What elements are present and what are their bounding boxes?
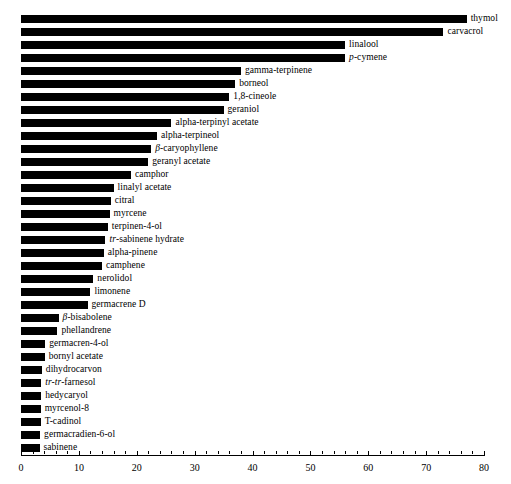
bar-label: carvacrol bbox=[447, 27, 483, 37]
bar-label: p-cymene bbox=[349, 53, 387, 63]
axis-tick-label: 20 bbox=[132, 463, 142, 473]
bar-row: citral bbox=[0, 194, 135, 207]
axis-tick-major bbox=[310, 451, 311, 456]
axis-tick-label: 60 bbox=[363, 463, 373, 473]
axis-tick-minor bbox=[171, 451, 172, 454]
bar-label: β-caryophyllene bbox=[155, 144, 217, 154]
axis-tick-label: 40 bbox=[248, 463, 258, 473]
bar bbox=[21, 366, 42, 374]
bar-label: myrcenol-8 bbox=[45, 404, 89, 414]
axis-tick-major bbox=[79, 451, 80, 456]
bar-row: camphor bbox=[0, 168, 169, 181]
axis-tick-minor bbox=[67, 451, 68, 454]
bar-label: camphene bbox=[106, 261, 145, 271]
axis-tick-minor bbox=[241, 451, 242, 454]
bar bbox=[21, 132, 157, 140]
bar bbox=[21, 431, 40, 439]
axis-tick-minor bbox=[287, 451, 288, 454]
axis-tick-minor bbox=[33, 451, 34, 454]
axis-cap-left bbox=[21, 451, 22, 456]
bar-row: geranyl acetate bbox=[0, 155, 210, 168]
bar-row: dihydrocarvon bbox=[0, 363, 102, 376]
axis-tick-minor bbox=[415, 451, 416, 454]
axis-tick-minor bbox=[125, 451, 126, 454]
bar bbox=[21, 106, 224, 114]
axis-tick-label: 50 bbox=[305, 463, 315, 473]
bar-row: T-cadinol bbox=[0, 415, 81, 428]
bar-label: alpha-pinene bbox=[108, 248, 158, 258]
bar-label: 1,8-cineole bbox=[233, 92, 276, 102]
bar bbox=[21, 327, 57, 335]
bar bbox=[21, 418, 41, 426]
bar bbox=[21, 80, 235, 88]
bar bbox=[21, 54, 345, 62]
axis-tick-minor bbox=[334, 451, 335, 454]
axis-tick-minor bbox=[345, 451, 346, 454]
axis-tick-major bbox=[195, 451, 196, 456]
axis-tick-minor bbox=[160, 451, 161, 454]
axis-tick-minor bbox=[472, 451, 473, 454]
bar-label: tr-tr-farnesol bbox=[45, 378, 95, 388]
bar-row: tr-tr-farnesol bbox=[0, 376, 95, 389]
bar-label: germacradien-6-ol bbox=[44, 430, 115, 440]
bar bbox=[21, 197, 111, 205]
bar-label: alpha-terpineol bbox=[161, 131, 219, 141]
bar bbox=[21, 41, 345, 49]
axis-tick-minor bbox=[461, 451, 462, 454]
bar bbox=[21, 15, 467, 23]
bar-label: thymol bbox=[471, 14, 498, 24]
bar-label: β-bisabolene bbox=[63, 313, 112, 323]
bar-row: β-caryophyllene bbox=[0, 142, 218, 155]
bar-row: germacradien-6-ol bbox=[0, 428, 115, 441]
axis-tick-minor bbox=[449, 451, 450, 454]
axis-tick-minor bbox=[90, 451, 91, 454]
bar-row: myrcene bbox=[0, 207, 147, 220]
bar-label: camphor bbox=[135, 170, 169, 180]
bar-label: myrcene bbox=[114, 209, 147, 219]
bar bbox=[21, 392, 41, 400]
bar-row: germacrene D bbox=[0, 298, 146, 311]
bar-label: T-cadinol bbox=[45, 417, 82, 427]
axis-tick-minor bbox=[299, 451, 300, 454]
bar-row: gamma-terpinene bbox=[0, 64, 312, 77]
bar-label: bornyl acetate bbox=[49, 352, 103, 362]
bar bbox=[21, 223, 108, 231]
bar-label: germacren-4-ol bbox=[49, 339, 108, 349]
plot-area: thymolcarvacrollinaloolp-cymenegamma-ter… bbox=[0, 0, 511, 455]
bar-row: phellandrene bbox=[0, 324, 111, 337]
axis-tick-label: 80 bbox=[479, 463, 489, 473]
bar bbox=[21, 379, 41, 387]
bar bbox=[21, 93, 229, 101]
x-axis: 01020304050607080 bbox=[0, 455, 511, 484]
bar bbox=[21, 288, 90, 296]
axis-tick-minor bbox=[391, 451, 392, 454]
axis-cap-right bbox=[484, 451, 485, 456]
axis-tick-minor bbox=[206, 451, 207, 454]
bar bbox=[21, 236, 105, 244]
axis-tick-major bbox=[368, 451, 369, 456]
bar-row: carvacrol bbox=[0, 25, 483, 38]
bar-row: linalool bbox=[0, 38, 379, 51]
bar bbox=[21, 210, 110, 218]
axis-tick-label: 0 bbox=[19, 463, 24, 473]
axis-tick-minor bbox=[114, 451, 115, 454]
bar-label: germacrene D bbox=[92, 300, 146, 310]
axis-tick-minor bbox=[44, 451, 45, 454]
axis-tick-minor bbox=[56, 451, 57, 454]
axis-tick-minor bbox=[148, 451, 149, 454]
axis-tick-minor bbox=[322, 451, 323, 454]
bar bbox=[21, 353, 45, 361]
bar bbox=[21, 340, 45, 348]
bar-label: terpinen-4-ol bbox=[112, 222, 162, 232]
bar-label: limonene bbox=[94, 287, 130, 297]
bar-row: p-cymene bbox=[0, 51, 387, 64]
bar bbox=[21, 171, 131, 179]
bar-label: sabinene bbox=[44, 443, 78, 453]
bar-row: geraniol bbox=[0, 103, 259, 116]
bar-label: tr-sabinene hydrate bbox=[109, 235, 184, 245]
axis-tick-minor bbox=[276, 451, 277, 454]
axis-tick-minor bbox=[380, 451, 381, 454]
bar bbox=[21, 184, 114, 192]
bar bbox=[21, 67, 241, 75]
bar-row: alpha-terpineol bbox=[0, 129, 219, 142]
